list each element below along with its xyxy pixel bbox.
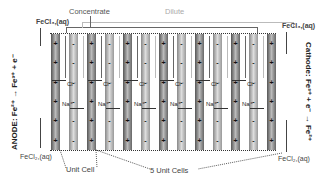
- pointer-lines: [0, 0, 323, 181]
